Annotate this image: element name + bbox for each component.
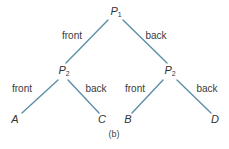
edge-label-right-right: back [196,83,217,95]
edge-label-root-right: back [145,30,166,42]
edge-label-left-right: back [85,83,106,95]
node-subscript: 2 [172,70,176,77]
edge-label-right-left: front [125,83,145,95]
edge-label-left-left: front [12,83,32,95]
leaf-b: B [124,113,131,126]
leaf-a: A [11,113,18,126]
edge-label-root-left: front [62,30,82,42]
leaf-c: C [98,113,106,126]
tree-edges [0,0,229,149]
node-subscript: 1 [118,11,122,18]
node-subscript: 2 [66,70,70,77]
node-root-p1: P1 [110,5,121,21]
figure-caption: (b) [109,129,120,140]
node-right-p2: P2 [164,64,175,80]
leaf-d: D [211,113,219,126]
node-left-p2: P2 [58,64,69,80]
bsp-tree-diagram: P1 P2 P2 A C B D front back front back f… [0,0,229,149]
